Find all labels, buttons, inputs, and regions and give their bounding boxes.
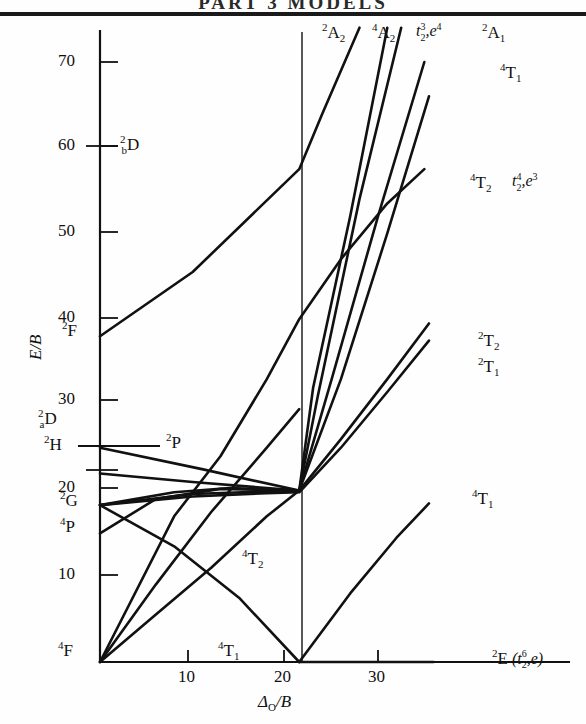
annotation-4A2-main: A bbox=[378, 23, 390, 42]
config-t23e4-e: e bbox=[429, 22, 436, 39]
term-2H-main: H bbox=[50, 435, 62, 454]
y-axis-label: E/B bbox=[26, 335, 46, 361]
y-tick-60: 60 bbox=[58, 136, 75, 153]
x-axis-label: ΔO/B bbox=[258, 692, 291, 713]
annotation-4A2-sub: 2 bbox=[390, 32, 396, 44]
annotation-2A2-sub: 2 bbox=[340, 32, 346, 44]
x-axis-rest: /B bbox=[276, 692, 291, 711]
config-t24e3: t24,e3 bbox=[512, 172, 538, 193]
annotation-2T1-main: T bbox=[484, 357, 494, 376]
annotation-4T2-mid-main: T bbox=[248, 549, 258, 568]
term-4F-main: F bbox=[64, 641, 73, 660]
annotation-4T2-right: 4T2 bbox=[470, 172, 491, 194]
annotation-4T1-right-main: T bbox=[478, 489, 488, 508]
config-t26e-e: e bbox=[531, 650, 538, 667]
config-t26e-close: ) bbox=[538, 650, 543, 667]
term-2H: 2H bbox=[44, 434, 62, 453]
term-4P-main: P bbox=[66, 517, 75, 536]
curve-4T1-right bbox=[299, 503, 429, 662]
curve-4T1-upper bbox=[100, 96, 429, 490]
config-t24e3-sup: 4 bbox=[516, 171, 521, 182]
annotation-2E-main: E bbox=[498, 649, 508, 668]
term-2P-main: P bbox=[172, 433, 181, 452]
x-axis-delta: Δ bbox=[258, 692, 268, 711]
annotation-4T1-bottom: 4T1 bbox=[218, 640, 239, 662]
term-4F: 4F bbox=[58, 640, 73, 659]
x-tick-10: 10 bbox=[178, 668, 195, 685]
figure-page: PART 3 MODELS bbox=[0, 0, 586, 724]
tanabe-sugano-diagram: E/B 70 60 50 40 30 20 10 10 20 30 ΔO/B 2… bbox=[0, 0, 586, 724]
annotation-4A2: 4A2 bbox=[372, 22, 395, 44]
config-t23e4-sup: 3 bbox=[420, 21, 425, 32]
annotation-4T2-right-main: T bbox=[476, 173, 486, 192]
x-ticks bbox=[188, 650, 378, 662]
curve-2T1-line bbox=[100, 341, 429, 506]
x-tick-30: 30 bbox=[368, 668, 385, 685]
config-t23e4: t23,e4 bbox=[416, 22, 442, 43]
x-axis-sub: O bbox=[268, 701, 276, 713]
annotation-4T1-top: 4T1 bbox=[500, 62, 521, 84]
term-2F: 2F bbox=[62, 320, 77, 339]
term-2bD: 2bD bbox=[120, 134, 139, 156]
config-t24e3-esup: 3 bbox=[533, 171, 538, 182]
term-2G: 2G bbox=[60, 490, 78, 509]
annotation-2E-ground: 2E(t26,e) bbox=[492, 648, 543, 670]
annotation-4T1-bottom-sub: 1 bbox=[234, 650, 240, 662]
annotation-2A2-main: A bbox=[328, 23, 340, 42]
term-2F-main: F bbox=[68, 321, 77, 340]
annotation-2A1: 2A1 bbox=[482, 22, 505, 44]
term-2G-main: G bbox=[66, 491, 78, 510]
annotation-2A1-main: A bbox=[488, 23, 500, 42]
term-4P: 4P bbox=[60, 516, 75, 535]
y-tick-30: 30 bbox=[58, 390, 75, 407]
y-tick-10: 10 bbox=[58, 565, 75, 582]
y-tick-70: 70 bbox=[58, 52, 75, 69]
curve-4T2-lower bbox=[100, 409, 299, 662]
term-2P: 2P bbox=[166, 432, 181, 451]
annotation-4T1-right: 4T1 bbox=[472, 488, 493, 510]
annotation-4T1-top-sub: 1 bbox=[516, 72, 522, 84]
y-tick-50: 50 bbox=[58, 222, 75, 239]
annotation-4T2-mid: 4T2 bbox=[242, 548, 263, 570]
config-t23e4-sub: 2 bbox=[420, 32, 425, 43]
annotation-4T2-right-sub: 2 bbox=[486, 182, 492, 194]
annotation-4T1-top-main: T bbox=[506, 63, 516, 82]
term-2bD-main: D bbox=[127, 135, 139, 154]
annotation-4T1-bottom-main: T bbox=[224, 641, 234, 660]
annotation-2T1-sub: 1 bbox=[494, 366, 500, 378]
curve-2A1-line bbox=[100, 62, 424, 491]
x-tick-20: 20 bbox=[274, 668, 291, 685]
curve-group bbox=[100, 28, 434, 662]
annotation-2A2: 2A2 bbox=[322, 22, 345, 44]
annotation-2A1-sub: 1 bbox=[500, 32, 506, 44]
annotation-2T2: 2T2 bbox=[478, 330, 499, 352]
config-t24e3-e: e bbox=[525, 172, 532, 189]
term-leader-lines bbox=[78, 146, 160, 470]
annotation-2T2-sub: 2 bbox=[494, 340, 500, 352]
annotation-2T2-main: T bbox=[484, 331, 494, 350]
config-t24e3-sub: 2 bbox=[516, 182, 521, 193]
y-ticks bbox=[100, 62, 118, 575]
config-t23e4-esup: 4 bbox=[437, 21, 442, 32]
curve-4T2-upper bbox=[100, 169, 424, 662]
annotation-4T1-right-sub: 1 bbox=[488, 498, 494, 510]
term-2aD: 2aD bbox=[38, 408, 57, 430]
annotation-4T2-mid-sub: 2 bbox=[258, 558, 264, 570]
annotation-2T1: 2T1 bbox=[478, 356, 499, 378]
config-t26e: (t26,e) bbox=[512, 650, 543, 667]
term-2aD-main: D bbox=[44, 409, 56, 428]
